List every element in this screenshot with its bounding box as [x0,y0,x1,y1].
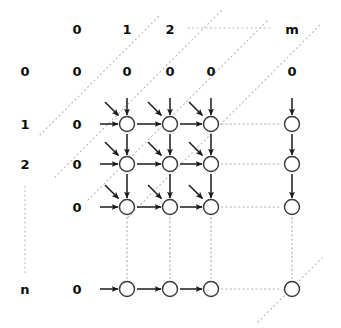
grid-node-rn-c1 [120,282,135,297]
column-header-0: 0 [72,23,81,36]
dp-grid-figure: 012m012n000000000 [0,0,341,328]
column-header-1: 1 [122,23,131,36]
grid-node-r1-c3 [204,117,219,132]
grid-node-rn-cm [285,282,300,297]
grid-node-r2-cm [285,157,300,172]
substitution-arrow-r2-c0 [105,185,119,199]
substitution-arrow-r1-c2 [189,142,203,156]
ellipsis-dotted-lines [25,28,272,276]
zero-row-cell-0: 0 [72,65,81,78]
zero-column-cell-2: 0 [72,201,81,214]
zero-column-cell-3: 0 [72,283,81,296]
grid-node-r3-c1 [120,200,135,215]
substitution-arrow-r0-c0 [105,102,119,116]
substitution-arrow-r2-c1 [148,185,162,199]
row-header-n: n [20,283,29,296]
row-header-1: 1 [20,118,29,131]
substitution-arrow-r1-c0 [105,142,119,156]
substitution-arrow-r0-c2 [189,102,203,116]
column-header-2: 2 [165,23,174,36]
grid-node-r2-c1 [120,157,135,172]
grid-node-r2-c2 [163,157,178,172]
zero-column-cell-0: 0 [72,118,81,131]
grid-node-rn-c2 [163,282,178,297]
substitution-arrow-r0-c1 [148,102,162,116]
grid-node-r1-c2 [163,117,178,132]
grid-node-rn-c3 [204,282,219,297]
substitution-arrow-r1-c1 [148,142,162,156]
grid-node-r3-c3 [204,200,219,215]
zero-row-cell-1: 0 [122,65,131,78]
anti-diagonal-dotted-line-3 [88,20,268,200]
row-header-2: 2 [20,158,29,171]
zero-row-cell-2: 0 [165,65,174,78]
dp-grid-canvas [0,0,341,328]
grid-node-r1-c1 [120,117,135,132]
zero-row-cell-3: 0 [206,65,215,78]
zero-column-cell-1: 0 [72,158,81,171]
row-header-0: 0 [20,65,29,78]
grid-node-r2-c3 [204,157,219,172]
zero-row-cell-4: 0 [287,65,296,78]
grid-node-r1-cm [285,117,300,132]
grid-node-r3-cm [285,200,300,215]
column-header-m: m [285,23,299,36]
anti-diagonal-dotted-line-1 [40,15,160,135]
anti-diagonal-dotted-lines [40,10,322,322]
grid-node-r3-c2 [163,200,178,215]
substitution-arrow-r2-c2 [189,185,203,199]
